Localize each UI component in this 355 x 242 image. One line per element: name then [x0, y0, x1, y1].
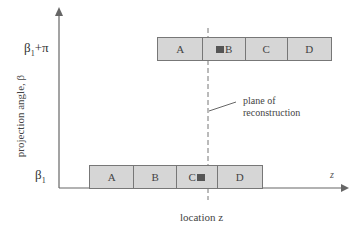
- top-cell-a: A: [158, 38, 203, 60]
- bottom-cell-a: A: [90, 166, 134, 188]
- x-axis-arrow-icon: [341, 184, 349, 192]
- top-cell-b: B: [203, 38, 246, 60]
- plane-annotation: plane of reconstruction: [243, 95, 300, 119]
- y-axis-arrow-icon: [55, 7, 63, 16]
- y-axis-label: projection angle, β: [14, 51, 26, 181]
- bottom-cell-d: D: [218, 166, 262, 188]
- top-cell-d: D: [288, 38, 331, 60]
- bottom-detector-bar: A B C D: [89, 165, 263, 189]
- bottom-cell-b: B: [134, 166, 177, 188]
- y-tick-beta1: β1: [35, 167, 46, 185]
- marker-icon: [197, 174, 205, 181]
- x-axis-end-label: z: [330, 169, 334, 180]
- y-tick-beta1-plus-pi: β1+π: [24, 40, 49, 58]
- bottom-cell-c: C: [177, 166, 218, 188]
- top-cell-c: C: [246, 38, 288, 60]
- x-axis-label: location z: [180, 211, 223, 223]
- annotation-leader-line: [209, 102, 236, 111]
- marker-icon: [216, 46, 224, 53]
- top-detector-bar: A B C D: [157, 37, 332, 61]
